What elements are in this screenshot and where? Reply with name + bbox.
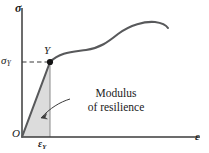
diagram-canvas [0,0,209,153]
sigma-y-tick-label: σY [1,55,11,69]
sigma-y-symbol: σ [1,54,6,66]
origin-label: O [12,128,20,139]
y-axis-label: σ [15,2,21,14]
yield-point-marker [47,59,53,65]
annotation-line-2: of resilience [66,100,166,114]
x-axis-label: ε [195,131,200,142]
sigma-y-subscript: Y [7,60,11,68]
epsilon-y-tick-label: εY [38,139,46,151]
annotation-line-1: Modulus [66,86,166,100]
epsilon-y-subscript: Y [42,143,46,150]
modulus-of-resilience-annotation: Modulus of resilience [66,86,166,114]
yield-point-label: Y [44,45,50,56]
stress-strain-diagram: σ ε σY εY O Y Modulus of resilience [0,0,209,153]
